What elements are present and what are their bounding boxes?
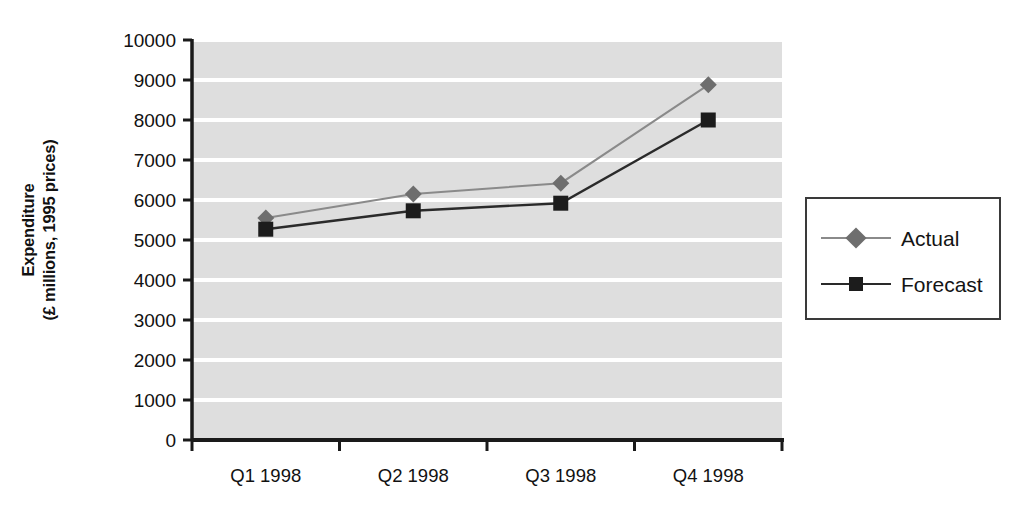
legend-label-actual: Actual <box>901 228 959 249</box>
data-point-square-marker[interactable] <box>406 203 421 218</box>
legend-key-forecast <box>817 271 895 297</box>
legend-label-forecast: Forecast <box>901 274 983 295</box>
legend-key-actual <box>817 225 895 251</box>
legend-item-forecast[interactable]: Forecast <box>807 267 999 301</box>
chart-legend: Actual Forecast <box>805 197 1001 320</box>
legend-item-actual[interactable]: Actual <box>807 221 999 255</box>
data-point-square-marker[interactable] <box>258 222 273 237</box>
square-marker-icon <box>849 277 863 291</box>
diamond-marker-icon <box>845 227 866 248</box>
data-point-square-marker[interactable] <box>553 196 568 211</box>
line-chart: Expenditure (£ millions, 1995 prices) 10… <box>0 0 1017 510</box>
data-point-square-marker[interactable] <box>701 113 716 128</box>
